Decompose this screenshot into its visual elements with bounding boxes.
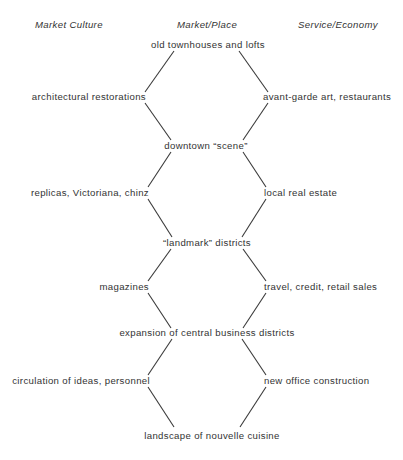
node-architectural-restorations: architectural restorations [32, 91, 146, 103]
node-travel-credit: travel, credit, retail sales [264, 281, 377, 293]
connector-lines [0, 0, 403, 460]
node-magazines: magazines [99, 281, 149, 293]
node-landmark-districts: “landmark” districts [163, 237, 251, 249]
node-avant-garde: avant-garde art, restaurants [263, 91, 391, 103]
header-market-culture: Market Culture [35, 19, 103, 31]
node-landscape-nouvelle-cuisine: landscape of nouvelle cuisine [144, 430, 280, 442]
header-service-economy: Service/Economy [298, 19, 378, 31]
node-replicas-victoriana: replicas, Victoriana, chinz [31, 187, 149, 199]
node-new-office-construction: new office construction [264, 375, 369, 387]
node-old-townhouses: old townhouses and lofts [151, 39, 265, 51]
node-expansion-cbd: expansion of central business districts [119, 327, 294, 339]
node-circulation-ideas: circulation of ideas, personnel [12, 375, 150, 387]
node-downtown-scene: downtown “scene” [164, 140, 247, 152]
header-market-place: Market/Place [177, 19, 237, 31]
node-local-real-estate: local real estate [264, 187, 337, 199]
